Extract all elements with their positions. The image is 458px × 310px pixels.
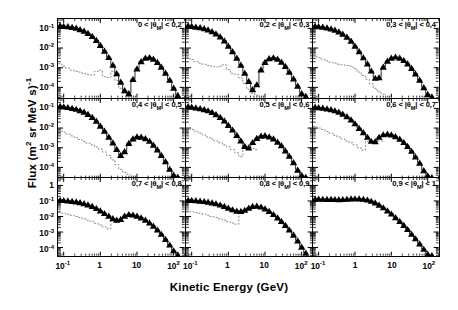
data-markers-3 [57, 102, 181, 177]
flux-spectra-figure: Flux (m2 sr MeV s)-1 Kinetic Energy (GeV… [0, 0, 458, 310]
y-tick-label: 10-1 [4, 102, 54, 113]
spectrum-panel-2: 0,3 < |θM| < 0,4 [312, 18, 440, 98]
spectrum-panel-5: 0,6 < |θM| < 0,7 [312, 98, 440, 178]
data-markers-4 [185, 103, 309, 178]
panel-plot-4 [186, 99, 313, 178]
primary-histogram-3 [58, 106, 180, 177]
x-tick-label: 102 [167, 260, 180, 271]
y-tick-label: 10-3 [4, 62, 54, 73]
x-axis-ticks: 10-111010210-111010210-1110102 [0, 258, 458, 276]
spectrum-panel-8: 0,9 < |θM| < 1 [312, 177, 440, 257]
data-markers-5 [312, 103, 435, 177]
primary-histogram-8 [314, 199, 435, 256]
y-tick-label: 10-4 [4, 243, 54, 254]
y-tick-label: 10-2 [4, 122, 54, 133]
data-markers-1 [185, 22, 309, 98]
y-tick-label: 10-4 [4, 162, 54, 173]
y-tick-label: 1 [4, 180, 54, 190]
data-markers-8 [312, 195, 435, 256]
marker [245, 78, 252, 84]
x-tick-label: 10-1 [183, 260, 198, 271]
panel-tick-marks-7 [186, 178, 313, 256]
x-tick-label: 1 [353, 260, 358, 270]
x-tick-label: 10 [260, 260, 269, 270]
secondary-histogram-1 [186, 58, 259, 95]
x-tick-label: 1 [97, 260, 102, 270]
secondary-histogram-5 [314, 126, 386, 150]
panel-plot-6 [58, 178, 185, 256]
spectrum-panel-3: 0,4 < |θM| < 0,5 [57, 98, 185, 178]
secondary-histogram-4 [186, 128, 259, 157]
data-markers-7 [185, 197, 309, 256]
x-tick-label: 10 [387, 260, 396, 270]
primary-histogram-4 [186, 106, 308, 177]
spectrum-panel-0: 0 < |θM| < 0,2 [57, 18, 185, 98]
y-tick-label: 10-2 [4, 42, 54, 53]
panel-plot-5 [313, 99, 439, 178]
marker [113, 145, 120, 151]
x-tick-label: 10-1 [55, 260, 70, 271]
secondary-histogram-2 [314, 56, 386, 94]
y-tick-label: 10-4 [4, 82, 54, 93]
spectrum-panel-7: 0,8 < |θM| < 0,9 [185, 177, 313, 257]
secondary-histogram-3 [58, 130, 131, 174]
y-tick-label: 10-3 [4, 227, 54, 238]
x-axis-label: Kinetic Energy (GeV) [0, 281, 458, 293]
panel-grid: 0 < |θM| < 0,20,2 < |θM| < 0,30,3 < |θM|… [57, 18, 440, 257]
marker [117, 79, 124, 85]
panel-plot-7 [186, 178, 313, 256]
x-tick-label: 102 [295, 260, 308, 271]
y-tick-label: 10-1 [4, 22, 54, 33]
spectrum-panel-1: 0,2 < |θM| < 0,3 [185, 18, 313, 98]
panel-plot-0 [58, 19, 185, 98]
x-tick-label: 10-1 [311, 260, 326, 271]
primary-histogram-6 [58, 200, 180, 255]
y-tick-label: 10-3 [4, 142, 54, 153]
x-tick-label: 1 [225, 260, 230, 270]
y-tick-label: 10-2 [4, 211, 54, 222]
spectrum-panel-6: 0,7 < |θM| < 0,8 [57, 177, 185, 257]
panel-plot-8 [313, 178, 439, 256]
marker [113, 70, 120, 76]
panel-plot-2 [313, 19, 439, 98]
x-tick-label: 102 [423, 260, 436, 271]
data-markers-6 [57, 197, 181, 257]
spectrum-panel-4: 0,5 < |θM| < 0,6 [185, 98, 313, 178]
marker [241, 69, 248, 75]
marker [368, 67, 375, 73]
panel-plot-1 [186, 19, 313, 98]
x-tick-label: 10 [132, 260, 141, 270]
panel-plot-3 [58, 99, 185, 178]
primary-histogram-1 [186, 26, 308, 97]
y-tick-label: 10-1 [4, 195, 54, 206]
